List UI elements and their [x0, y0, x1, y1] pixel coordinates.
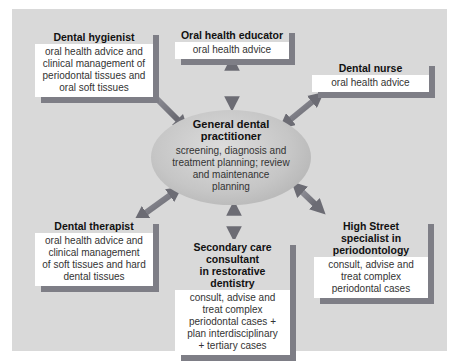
center-title: General dental practitioner	[151, 118, 311, 142]
node-oral-health-educator: Oral health educator oral health advice	[175, 27, 289, 59]
node-dental-nurse: Dental nurse oral health advice	[312, 60, 429, 92]
node-title: Dental therapist	[35, 218, 153, 233]
node-description: consult, advise and treat complex period…	[314, 257, 428, 298]
node-title: Oral health educator	[175, 27, 289, 42]
node-dental-hygienist: Dental hygienist oral health advice and …	[35, 29, 153, 97]
node-title: Dental hygienist	[35, 29, 153, 44]
node-description: oral health advice	[175, 42, 289, 59]
node-high-street-specialist: High Street specialist in periodontology…	[314, 218, 428, 298]
node-description: oral health advice and clinical manageme…	[35, 44, 153, 97]
node-dental-therapist: Dental therapist oral health advice and …	[35, 218, 153, 286]
node-description: oral health advice and clinical manageme…	[35, 233, 153, 286]
node-title: High Street specialist in periodontology	[314, 218, 428, 257]
node-description: consult, advise and treat complex period…	[175, 290, 290, 355]
node-title: Dental nurse	[312, 60, 429, 75]
node-general-dental-practitioner: General dental practitioner screening, d…	[151, 110, 311, 205]
arrow-therapist	[140, 191, 176, 217]
node-secondary-care-consultant: Secondary care consultant in restorative…	[175, 239, 290, 355]
center-description: screening, diagnosis and treatment plann…	[151, 145, 311, 193]
node-description: oral health advice	[312, 75, 429, 92]
node-title: Secondary care consultant in restorative…	[175, 239, 290, 290]
